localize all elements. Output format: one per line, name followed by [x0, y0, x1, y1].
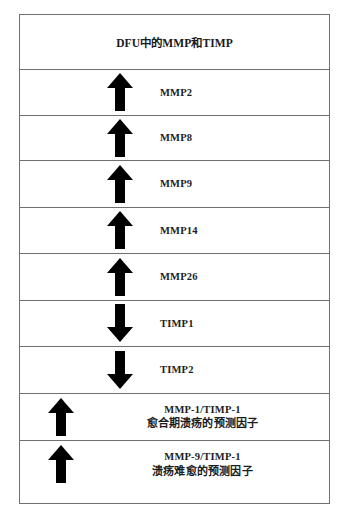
ratio-row-mmp9-timp1: MMP-9/TIMP-1 溃疡难愈的预测因子 — [20, 441, 329, 488]
marker-label: MMP9 — [160, 178, 192, 189]
ratio-description: 愈合期溃疡的预测因子 — [147, 416, 259, 430]
marker-label: MMP8 — [160, 132, 192, 143]
ratio-text-cell: MMP-1/TIMP-1 愈合期溃疡的预测因子 — [80, 394, 325, 440]
marker-label-cell: TIMP1 — [160, 301, 194, 347]
arrow-down-icon — [107, 304, 133, 342]
marker-row-mmp9: MMP9 — [20, 161, 329, 208]
diagram-frame: DFU中的MMP和TIMP MMP2 MMP8 MMP9 — [19, 14, 330, 504]
marker-row-mmp2: MMP2 — [20, 70, 329, 116]
marker-row-mmp14: MMP14 — [20, 208, 329, 255]
marker-label-cell: MMP14 — [160, 208, 198, 254]
marker-label-cell: MMP8 — [160, 116, 192, 161]
marker-row-timp1: TIMP1 — [20, 301, 329, 348]
marker-label: MMP26 — [160, 271, 198, 282]
arrow-up-icon — [48, 398, 74, 436]
arrow-up-icon — [107, 165, 133, 203]
ratio-name: MMP-9/TIMP-1 — [164, 450, 240, 463]
marker-arrow-cell — [102, 254, 138, 300]
marker-arrow-cell — [102, 208, 138, 254]
marker-arrow-cell — [102, 161, 138, 207]
marker-row-mmp26: MMP26 — [20, 254, 329, 301]
marker-label-cell: MMP26 — [160, 254, 198, 300]
marker-row-timp2: TIMP2 — [20, 347, 329, 394]
marker-arrow-cell — [102, 301, 138, 347]
arrow-up-icon — [107, 73, 133, 111]
ratio-arrow-cell — [44, 394, 78, 440]
diagram-title-row: DFU中的MMP和TIMP — [20, 15, 329, 70]
marker-label-cell: TIMP2 — [160, 347, 194, 393]
ratio-text-cell: MMP-9/TIMP-1 溃疡难愈的预测因子 — [80, 441, 325, 488]
marker-label: MMP14 — [160, 225, 198, 236]
ratio-row-mmp1-timp1: MMP-1/TIMP-1 愈合期溃疡的预测因子 — [20, 394, 329, 441]
marker-arrow-cell — [102, 70, 138, 115]
marker-label-cell: MMP2 — [160, 70, 192, 115]
marker-arrow-cell — [102, 116, 138, 161]
marker-row-mmp8: MMP8 — [20, 116, 329, 162]
arrow-up-icon — [107, 119, 133, 157]
arrow-down-icon — [107, 351, 133, 389]
ratio-name: MMP-1/TIMP-1 — [164, 403, 240, 416]
ratio-arrow-cell — [44, 441, 78, 488]
ratio-description: 溃疡难愈的预测因子 — [152, 464, 253, 478]
marker-label-cell: MMP9 — [160, 161, 192, 207]
arrow-up-icon — [107, 258, 133, 296]
marker-label: TIMP2 — [160, 364, 194, 375]
marker-label: TIMP1 — [160, 318, 194, 329]
diagram-title: DFU中的MMP和TIMP — [116, 34, 233, 50]
marker-label: MMP2 — [160, 87, 192, 98]
arrow-up-icon — [48, 445, 74, 483]
marker-arrow-cell — [102, 347, 138, 393]
arrow-up-icon — [107, 211, 133, 249]
